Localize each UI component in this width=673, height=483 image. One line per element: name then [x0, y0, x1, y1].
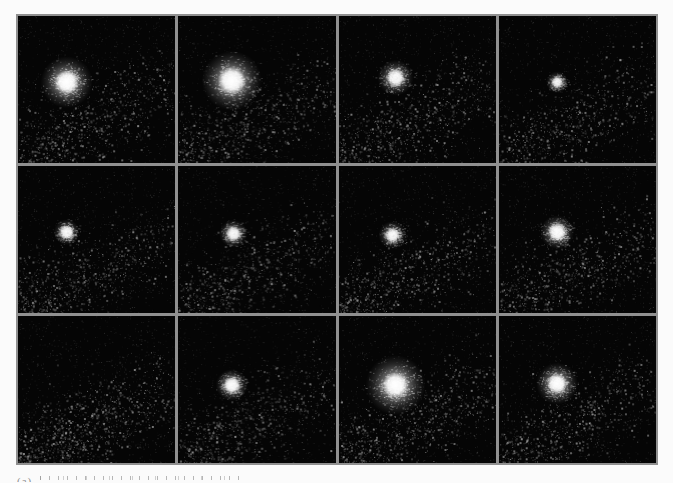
page: (a): [0, 0, 673, 483]
panel-r3c4: [499, 316, 656, 463]
panel-r2c3: [339, 166, 496, 313]
astro-image-r1c4: [499, 16, 656, 163]
astro-image-r2c4: [499, 166, 656, 313]
panel-r3c1: [18, 316, 175, 463]
astro-image-r2c1: [18, 166, 175, 313]
panel-r1c3: [339, 16, 496, 163]
panel-r1c4: [499, 16, 656, 163]
figure-caption: (a): [17, 475, 437, 482]
astro-image-r3c2: [178, 316, 335, 463]
astro-image-r3c1: [18, 316, 175, 463]
panel-r1c1: [18, 16, 175, 163]
panel-r2c4: [499, 166, 656, 313]
astro-image-r1c1: [18, 16, 175, 163]
figure-grid: [16, 14, 658, 465]
panel-r1c2: [178, 16, 335, 163]
astro-image-r3c4: [499, 316, 656, 463]
astro-image-r3c3: [339, 316, 496, 463]
astro-image-r1c3: [339, 16, 496, 163]
panel-r3c2: [178, 316, 335, 463]
panel-r3c3: [339, 316, 496, 463]
astro-image-r1c2: [178, 16, 335, 163]
panel-r2c1: [18, 166, 175, 313]
astro-image-r2c3: [339, 166, 496, 313]
caption-label: (a): [17, 475, 32, 482]
caption-clipped-text: [40, 476, 245, 480]
panel-r2c2: [178, 166, 335, 313]
astro-image-r2c2: [178, 166, 335, 313]
